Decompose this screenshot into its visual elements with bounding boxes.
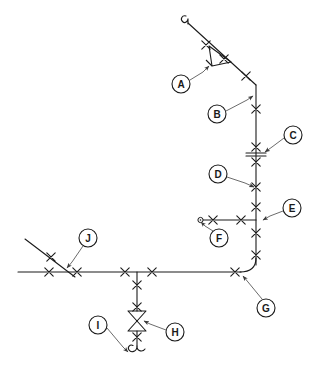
leader-line-c [265,138,284,152]
balloon-label-d: D [214,169,221,180]
balloon-label-h: H [171,327,178,338]
leader-line-d [227,177,254,187]
leader-line-e [263,211,283,220]
leader-line-j [67,246,83,268]
leader-line-b [226,96,253,111]
weld-mark [202,41,210,49]
leader-line-g [243,276,262,299]
balloon-label-j: J [85,233,91,244]
balloon-label-f: F [216,233,222,244]
balloon-label-c: C [289,130,296,141]
gate-valve-bowtie [128,311,146,321]
balloon-label-i: I [97,320,100,331]
piping-isometric-diagram: ABCDEFGHIJ [0,0,320,380]
drain-hook-end [128,345,145,352]
callout-balloon-b[interactable]: B [208,96,253,123]
open-end-cap-dot [200,219,202,221]
callout-balloon-j[interactable]: J [67,229,97,268]
component-symbols [128,46,266,331]
gate-valve-bowtie-lower [128,321,146,331]
callout-balloon-f[interactable]: F [201,222,228,247]
callout-balloon-g[interactable]: G [243,276,275,317]
pipe-network [18,16,256,352]
pipe-elbow-lower-right [240,258,256,272]
leader-line-h [144,321,166,330]
leader-line-f [201,222,213,231]
balloon-label-b: B [213,109,220,120]
leader-line-a [190,66,209,80]
balloon-label-e: E [289,203,296,214]
balloon-label-g: G [262,303,270,314]
callout-balloons-group: ABCDEFGHIJ [67,66,302,352]
callout-balloon-e[interactable]: E [263,199,301,220]
weld-mark [242,72,250,80]
callout-balloon-a[interactable]: A [172,66,209,93]
top-hook-terminal [181,16,188,24]
balloon-label-a: A [177,79,184,90]
callout-balloon-c[interactable]: C [265,126,302,152]
weld-marks-group [45,41,260,341]
leader-line-i [107,328,128,352]
diagram-canvas: ABCDEFGHIJ [0,0,320,380]
callout-balloon-h[interactable]: H [144,321,184,341]
callout-balloon-d[interactable]: D [209,165,254,187]
callout-balloon-i[interactable]: I [89,316,128,352]
